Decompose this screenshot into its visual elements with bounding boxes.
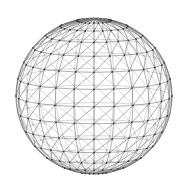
image-canvas [0, 0, 188, 192]
wireframe-sphere-figure [0, 0, 188, 192]
